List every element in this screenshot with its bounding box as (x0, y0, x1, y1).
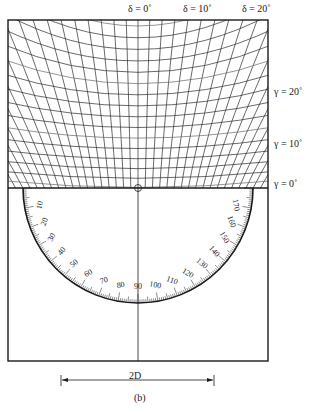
protractor-label: 30 (46, 231, 58, 242)
protractor-tick (197, 283, 199, 286)
protractor-label: 170 (231, 198, 242, 211)
protractor-label: 120 (180, 266, 195, 280)
protractor-tick (25, 206, 34, 208)
protractor-tick (34, 234, 39, 237)
grid-meridian-line (74, 15, 102, 188)
protractor-label: 40 (56, 245, 68, 257)
protractor-tick (38, 241, 46, 246)
grid-meridian-line (160, 15, 176, 188)
protractor-tick (75, 282, 77, 285)
protractor-tick (63, 272, 65, 275)
protractor-tick (39, 245, 42, 247)
protractor-tick (226, 257, 229, 259)
protractor-tick (53, 263, 56, 265)
protractor-tick (242, 206, 251, 208)
protractor-tick (218, 265, 221, 267)
protractor-tick (43, 250, 46, 252)
protractor-label: 10 (35, 200, 45, 209)
protractor-tick (237, 234, 242, 237)
protractor-tick (77, 283, 79, 286)
protractor-tick (230, 250, 233, 252)
protractor-tick (204, 278, 206, 281)
grid-parallel-line (3, 0, 273, 2)
grid-meridian-line (188, 15, 230, 188)
protractor-tick (74, 280, 76, 283)
protractor-tick (66, 275, 68, 278)
protractor-tick (247, 197, 253, 198)
delta-label-0: δ = 0˚ (128, 3, 152, 14)
protractor-tick (205, 277, 207, 280)
delta-label-1: δ = 10˚ (183, 3, 212, 14)
protractor-tick (215, 268, 217, 271)
gamma-label-1: γ = 10˚ (274, 138, 302, 149)
protractor-tick (230, 241, 238, 246)
protractor-label: 130 (195, 256, 210, 271)
grid-meridian-line (174, 15, 202, 188)
protractor-tick (46, 255, 49, 257)
protractor-label: 150 (217, 230, 231, 245)
grid-meridian-line (0, 15, 44, 188)
grid-meridian-line (152, 15, 162, 188)
protractor-label: 100 (149, 279, 162, 290)
protractor-tick (128, 297, 129, 303)
protractor-tick (61, 271, 63, 274)
protractor-tick (211, 272, 213, 275)
protractor-tick (199, 282, 201, 285)
grid-meridian-line (253, 15, 310, 188)
protractor-tick (79, 284, 81, 287)
grid-meridian-line (145, 15, 150, 188)
protractor-label: 20 (39, 216, 50, 227)
dimension-label: 2D (129, 370, 141, 381)
protractor-tick (234, 245, 237, 247)
grid-meridian-line (246, 15, 310, 188)
protractor-tick (108, 293, 110, 299)
arrow-right-icon (207, 378, 213, 382)
protractor-label: 80 (116, 280, 125, 290)
gamma-label-0: γ = 20˚ (274, 86, 302, 97)
gamma-label-2: γ = 0˚ (274, 178, 297, 189)
protractor-tick (156, 292, 158, 301)
protractor-tick (233, 247, 236, 249)
grid-meridian-line (46, 15, 88, 188)
protractor-tick (220, 264, 223, 266)
protractor-tick (227, 255, 230, 257)
protractor-label: 60 (82, 267, 93, 279)
grid-meridian-line (181, 15, 216, 188)
protractor-tick (70, 278, 72, 281)
grid-meridian-line (60, 15, 95, 188)
protractor-tick (214, 270, 216, 273)
protractor-tick (200, 280, 202, 283)
protractor-label: 110 (165, 274, 179, 286)
protractor-tick (213, 271, 215, 274)
protractor-label: 160 (225, 214, 238, 228)
protractor-tick (49, 258, 52, 260)
protractor-tick (222, 261, 225, 263)
grid-meridian-line (101, 15, 117, 188)
protractor-tick (67, 276, 69, 279)
protractor-tick (55, 265, 58, 267)
protractor-tick (232, 249, 235, 251)
protractor-tick (42, 249, 45, 251)
protractor-tick (45, 254, 48, 256)
protractor-tick (225, 258, 228, 260)
protractor-tick (206, 269, 212, 276)
protractor-tick (221, 263, 224, 265)
protractor-tick (27, 216, 33, 218)
protractor-tick (50, 256, 57, 262)
protractor-tick (208, 275, 210, 278)
grid-meridian-line (126, 15, 131, 188)
protractor-tick (228, 254, 231, 256)
figure-caption: (b) (134, 392, 146, 403)
protractor-tick (207, 276, 209, 279)
protractor-tick (51, 261, 54, 263)
protractor-tick (40, 247, 43, 249)
protractor-tick (60, 270, 62, 273)
protractor-tick (236, 242, 239, 244)
arrow-left-icon (62, 378, 68, 382)
delta-label-2: δ = 20˚ (242, 3, 271, 14)
protractor-tick (118, 292, 120, 301)
protractor-tick (54, 264, 57, 266)
protractor-tick (191, 280, 196, 288)
protractor-tick (166, 293, 168, 299)
protractor-tick (69, 277, 71, 280)
